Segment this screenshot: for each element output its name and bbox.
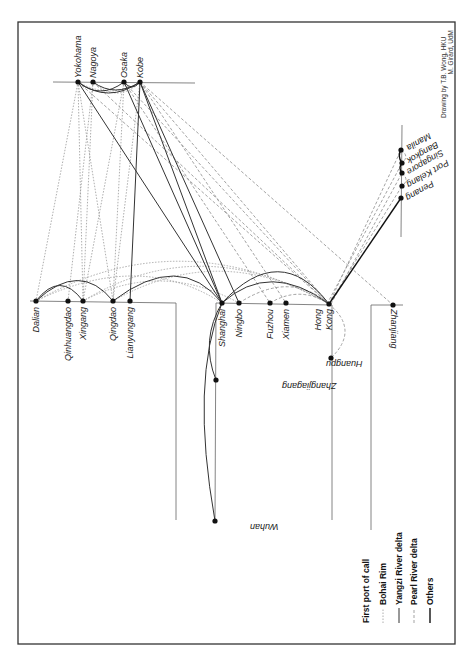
label-dalian: Dalian: [31, 307, 41, 333]
label-qinhuangdao: Qinhuangdao: [63, 307, 73, 361]
label-hong: Hong: [313, 309, 323, 331]
label-kong: Kong: [324, 309, 334, 330]
credit: Drawing by T.B. Wong, HKU M. Girard, UdM: [440, 30, 454, 118]
node-qingdao: [110, 298, 115, 303]
label-shanghai: Shanghai: [217, 308, 227, 347]
yangzi-inland-axis: [215, 303, 216, 522]
node-kobe: [137, 79, 142, 84]
node-wuhan: [212, 518, 217, 523]
label-zhanjiang: Zhanjiang: [389, 308, 399, 349]
labels-bohai-rim: Dalian Qinhuangdao Xingang Qingdao Liany…: [31, 307, 135, 361]
southeast-asia-axis: [401, 125, 402, 237]
node-fuzhou: [267, 300, 272, 305]
node-hong-kong: [326, 301, 331, 306]
label-fuzhou: Fuzhou: [265, 309, 275, 339]
node-port-kelang: [399, 183, 404, 188]
node-zhanjiang: [390, 302, 395, 307]
node-yokohama: [75, 79, 80, 84]
labels-inverted: Huangpu Zhangjiagang Wuhan: [250, 359, 363, 532]
label-nagoya: Nagoya: [88, 47, 98, 78]
legend-item-yangzi: Yangzi River delta: [394, 532, 404, 605]
node-qinhuangdao: [65, 298, 70, 303]
node-xiamen: [283, 300, 288, 305]
legend-title: First port of call: [361, 559, 371, 623]
node-dalian: [33, 298, 38, 303]
label-huangpu: Huangpu: [326, 359, 363, 369]
label-kobe: Kobe: [135, 57, 145, 78]
labels-japan: Yokohama Nagoya Osaka Kobe: [73, 35, 145, 78]
label-osaka: Osaka: [119, 52, 129, 78]
label-zhangjiagang: Zhangjiagang: [282, 381, 338, 391]
node-ningbo: [236, 300, 241, 305]
labels-china-south: Shanghai Ningbo Fuzhou Xiamen Hong Kong …: [217, 308, 399, 349]
port-network-diagram: Yokohama Nagoya Osaka Kobe Dalian Qinhua…: [0, 0, 474, 663]
label-qingdao: Qingdao: [108, 307, 118, 341]
label-lianyungang: Lianyungang: [125, 307, 135, 359]
legend-item-others: Others: [425, 577, 435, 605]
node-singapore: [399, 170, 404, 175]
routes-bohai-rim: [36, 82, 329, 304]
credit-line-2: M. Girard, UdM: [447, 30, 454, 74]
label-xingang: Xingang: [78, 307, 88, 341]
label-yokohama: Yokohama: [73, 35, 83, 78]
legend: First port of call Bohai Rim Yangzi Rive…: [361, 532, 435, 623]
node-osaka: [121, 79, 126, 84]
node-bangkok: [399, 160, 404, 165]
legend-item-pearl: Pearl River delta: [409, 538, 419, 605]
node-shanghai: [219, 300, 224, 305]
label-ningbo: Ningbo: [234, 309, 244, 338]
node-nagoya: [90, 79, 95, 84]
node-zhangjiagang: [213, 377, 218, 382]
node-lianyungang: [127, 298, 132, 303]
node-manila: [398, 147, 403, 152]
label-xiamen: Xiamen: [281, 309, 291, 341]
label-wuhan: Wuhan: [250, 522, 279, 532]
labels-southeast-asia: Manila Bangkok Singapore Port Kelang Pen…: [404, 131, 451, 203]
bohai-axis: [30, 301, 176, 520]
node-xingang: [80, 298, 85, 303]
legend-item-bohai: Bohai Rim: [378, 563, 388, 605]
node-penang: [398, 195, 403, 200]
